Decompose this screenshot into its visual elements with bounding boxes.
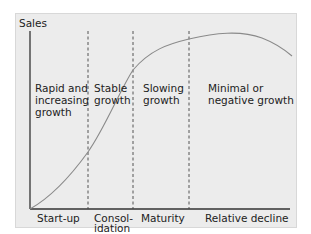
- growth-label-minimal-1: Minimal or: [208, 82, 263, 94]
- growth-label-minimal-2: negative growth: [208, 94, 294, 106]
- growth-label-rapid-1: Rapid and: [35, 82, 88, 94]
- growth-label-stable-1: Stable: [94, 82, 127, 94]
- phase-label-consolidation-2: idation: [94, 223, 130, 233]
- growth-label-slowing-1: Slowing: [143, 82, 184, 94]
- y-axis-label: Sales: [19, 17, 47, 29]
- growth-label-slowing-2: growth: [143, 94, 180, 106]
- phase-label-startup: Start-up: [37, 212, 80, 224]
- phase-label-decline: Relative decline: [205, 212, 289, 224]
- phase-label-maturity: Maturity: [141, 212, 185, 224]
- growth-label-stable-2: growth: [94, 94, 131, 106]
- sales-curve: [30, 33, 292, 209]
- growth-label-rapid-2: increasing: [35, 94, 89, 106]
- growth-label-rapid-3: growth: [35, 106, 72, 118]
